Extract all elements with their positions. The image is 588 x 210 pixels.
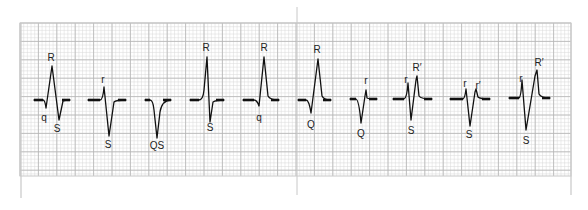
ecg-diagram: RqSrSQSRSRqRQrQrR′Srr′SrR′S xyxy=(0,0,588,210)
wave-label: S xyxy=(466,129,473,140)
wave-label: S xyxy=(408,125,415,136)
wave-label: Q xyxy=(357,128,365,139)
wave-label: R xyxy=(202,42,209,53)
strip-frame xyxy=(20,7,571,198)
wave-label: R xyxy=(260,42,267,53)
wave-label: Q xyxy=(307,119,315,130)
wave-label: r′ xyxy=(475,80,480,91)
ecg-grid-figure: RqSrSQSRSRqRQrQrR′Srr′SrR′S xyxy=(0,0,588,210)
wave-label: S xyxy=(523,135,530,146)
wave-label: S xyxy=(105,139,112,150)
wave-label: r xyxy=(364,75,368,86)
qrs-complex xyxy=(350,90,377,123)
wave-label: S xyxy=(54,123,61,134)
wave-label: q xyxy=(41,112,47,123)
wave-label: R′ xyxy=(534,57,543,68)
wave-label: QS xyxy=(150,140,165,151)
wave-label: S xyxy=(207,122,214,133)
wave-label: r xyxy=(463,78,467,89)
qrs-complex xyxy=(509,70,550,130)
wave-label: q xyxy=(256,112,262,123)
wave-label: R′ xyxy=(412,62,421,73)
wave-label: R xyxy=(47,52,54,63)
wave-label: R xyxy=(313,44,320,55)
